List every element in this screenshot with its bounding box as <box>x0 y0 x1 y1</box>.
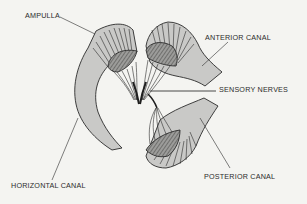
label-sensory-nerves: SENSORY NERVES <box>219 86 288 93</box>
label-horizontal-canal: HORIZONTAL CANAL <box>11 182 86 189</box>
label-anterior-canal: ANTERIOR CANAL <box>205 34 271 41</box>
posterior-canal <box>146 94 218 168</box>
horizontal-canal <box>75 24 137 150</box>
semicircular-canals-diagram: AMPULLA ANTERIOR CANAL SENSORY NERVES HO… <box>0 0 307 204</box>
label-posterior-canal: POSTERIOR CANAL <box>204 173 275 180</box>
label-ampulla: AMPULLA <box>25 12 60 19</box>
